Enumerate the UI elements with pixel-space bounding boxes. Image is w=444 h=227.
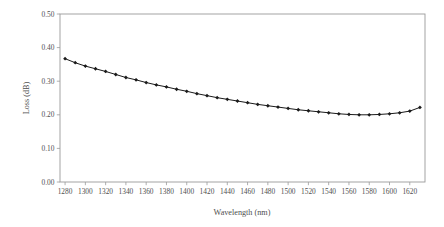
x-axis-tick-label: 1300 <box>78 187 93 196</box>
x-axis-tick-label: 1340 <box>119 187 134 196</box>
y-axis-tick-label: 0.50 <box>42 10 55 19</box>
x-axis-tick-label: 1540 <box>321 187 336 196</box>
x-axis-tick-label: 1320 <box>98 187 113 196</box>
y-axis-tick-label: 0.20 <box>42 110 55 119</box>
x-axis-title: Wavelength (nm) <box>214 208 271 217</box>
x-axis-tick-label: 1460 <box>240 187 255 196</box>
y-axis: 0.000.100.200.300.400.50 <box>42 10 60 187</box>
chart-figure: 0.000.100.200.300.400.50 128013001320134… <box>0 0 444 227</box>
x-axis-tick-label: 1280 <box>58 187 73 196</box>
loss-vs-wavelength-chart: 0.000.100.200.300.400.50 128013001320134… <box>0 0 444 227</box>
x-axis-tick-label: 1480 <box>260 187 275 196</box>
x-axis-tick-label: 1580 <box>362 187 377 196</box>
x-axis-tick-label: 1380 <box>159 187 174 196</box>
y-axis-tick-label: 0.40 <box>42 43 55 52</box>
x-axis-tick-label: 1500 <box>281 187 296 196</box>
plot-area-background <box>60 14 425 182</box>
y-axis-tick-label: 0.00 <box>42 178 55 187</box>
x-axis-tick-label: 1360 <box>139 187 154 196</box>
x-axis-tick-label: 1620 <box>402 187 417 196</box>
x-axis-tick-label: 1560 <box>342 187 357 196</box>
x-axis-tick-label: 1440 <box>220 187 235 196</box>
y-axis-title: Loss (dB) <box>22 81 31 114</box>
x-axis-tick-label: 1400 <box>179 187 194 196</box>
y-axis-tick-label: 0.30 <box>42 77 55 86</box>
x-axis-tick-label: 1600 <box>382 187 397 196</box>
y-axis-tick-label: 0.10 <box>42 144 55 153</box>
x-axis-tick-label: 1420 <box>200 187 215 196</box>
x-axis: 1280130013201340136013801400142014401460… <box>58 182 418 196</box>
x-axis-tick-label: 1520 <box>301 187 316 196</box>
